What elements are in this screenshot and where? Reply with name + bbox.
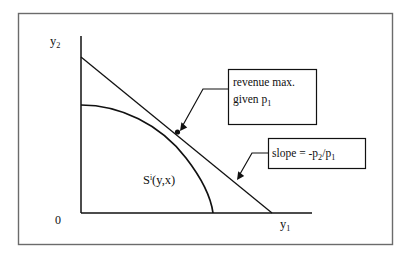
x-axis-label-sub: 1	[286, 224, 290, 233]
slope-prefix: slope = -p	[272, 147, 318, 160]
origin-label: 0	[55, 213, 61, 227]
revenue-max-line-2-base: given p	[233, 93, 267, 106]
y-axis-label-sub: 2	[56, 41, 60, 50]
slope-sub-den: 1	[331, 153, 335, 162]
tangency-point-marker	[175, 129, 180, 134]
frontier-curve-label: Si(y,x)	[143, 173, 175, 187]
figure-container: revenue max. given p1 slope = -p2/p1 y2 …	[0, 0, 411, 259]
frontier-curve-label-rest: (y,x)	[152, 173, 175, 187]
slope-mid: /p	[322, 147, 331, 160]
figure-border	[19, 14, 393, 245]
frontier-curve-label-base: S	[143, 173, 150, 187]
figure-canvas: revenue max. given p1 slope = -p2/p1 y2 …	[0, 0, 411, 259]
revenue-max-line-2-sub: 1	[267, 99, 271, 108]
revenue-max-line-1: revenue max.	[233, 76, 295, 88]
